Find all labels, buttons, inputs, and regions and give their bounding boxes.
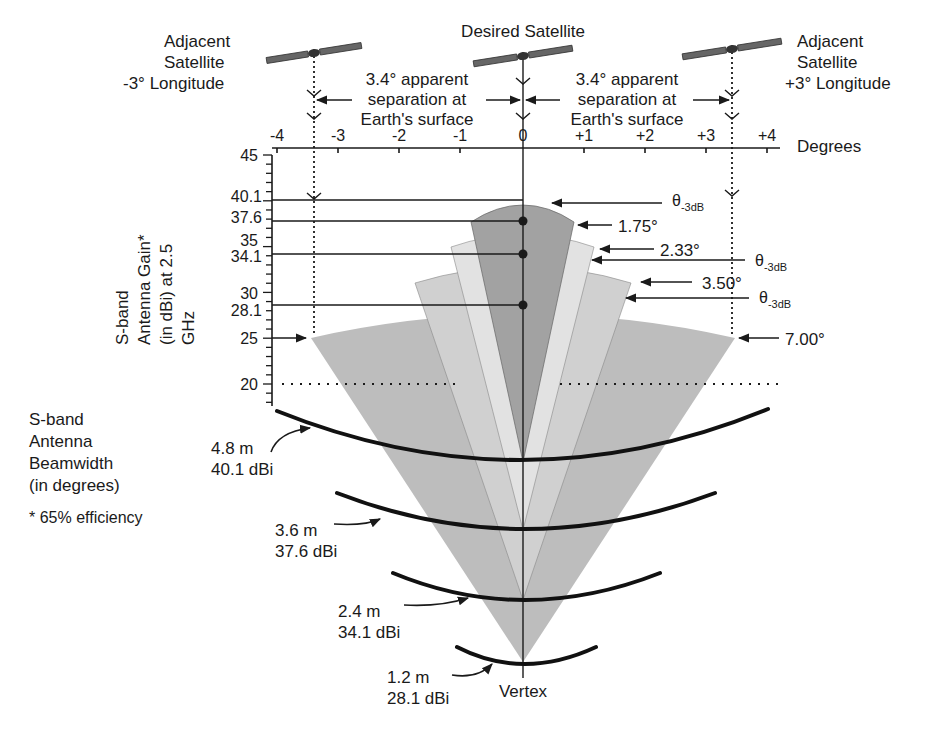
antenna-1-2m-size: 1.2 m [387,668,430,687]
x-tick: -2 [392,127,406,144]
y-tick: 30 [240,285,258,302]
legend-line3: Beamwidth [29,454,113,473]
antenna-2-4m-size: 2.4 m [338,602,381,621]
legend-line4: (in degrees) [29,476,120,495]
separation-left-line2: separation at [368,90,467,109]
theta-3db-label: θ-3dB [759,289,791,310]
y-tick: 37.6 [231,209,262,226]
antenna-3-6m-size: 3.6 m [275,521,318,540]
beamwidth-2-33-label: 2.33° [660,241,700,260]
x-axis-label: Degrees [797,137,861,156]
y-axis-label-line1: S-band [113,290,132,345]
antenna-1-2m-gain: 28.1 dBi [387,689,449,708]
y-tick: 25 [240,330,258,347]
desired-satellite-label: Desired Satellite [461,22,585,41]
beamwidth-1-75-label: 1.75° [618,217,658,236]
x-tick: +2 [636,127,654,144]
y-tick: 45 [240,147,258,164]
x-tick: +4 [758,127,776,144]
separation-right-line2: separation at [578,90,677,109]
beamwidth-3-50-label: 3.50° [702,274,742,293]
adjacent-left-label-line2: Satellite [164,53,224,72]
separation-left-line1: 3.4° apparent [366,70,469,89]
y-axis: 45 40.1 37.6 35 34.1 30 28.1 25 20 S-ban… [113,147,272,406]
separation-right-line1: 3.4° apparent [576,70,679,89]
legend-line1: S-band [29,410,84,429]
beamwidth-7-00-label: 7.00° [785,330,825,349]
y-tick: 34.1 [231,248,262,265]
y-tick: 20 [240,376,258,393]
efficiency-footnote: * 65% efficiency [29,509,143,526]
legend-line2: Antenna [29,432,93,451]
y-axis-label-line3: (in dBi) at 2.5 [157,244,176,345]
x-tick: -1 [453,127,467,144]
x-tick: -4 [270,127,284,144]
adjacent-left-label-line1: Adjacent [164,32,230,51]
antenna-3-6m-gain: 37.6 dBi [275,542,337,561]
x-tick: +1 [575,127,593,144]
y-axis-label-line2: Antenna Gain* [135,234,154,345]
antenna-4-8m-size: 4.8 m [211,439,254,458]
y-tick: 40.1 [231,188,262,205]
antenna-2-4m-gain: 34.1 dBi [338,623,400,642]
separation-right-line3: Earth's surface [571,110,684,129]
vertex-label: Vertex [499,682,548,701]
antenna-beamwidth-diagram: -4 -3 -2 -1 0 +1 +2 +3 +4 Degrees 45 40.… [0,0,943,730]
theta-3db-label: θ-3dB [755,252,787,273]
y-axis-label-line4: GHz [179,311,198,345]
adjacent-right-label-line2: Satellite [797,53,857,72]
separation-left-line3: Earth's surface [361,110,474,129]
adjacent-left-label-line3: -3° Longitude [123,74,224,93]
adjacent-right-label-line1: Adjacent [797,32,863,51]
antenna-4-8m-gain: 40.1 dBi [211,460,273,479]
x-tick: +3 [697,127,715,144]
x-tick: -3 [331,127,345,144]
x-axis: -4 -3 -2 -1 0 +1 +2 +3 +4 Degrees [270,127,861,156]
y-tick: 35 [240,232,258,249]
theta-3db-label: θ-3dB [672,192,704,213]
adjacent-right-label-line3: +3° Longitude [785,74,891,93]
y-tick: 28.1 [231,302,262,319]
